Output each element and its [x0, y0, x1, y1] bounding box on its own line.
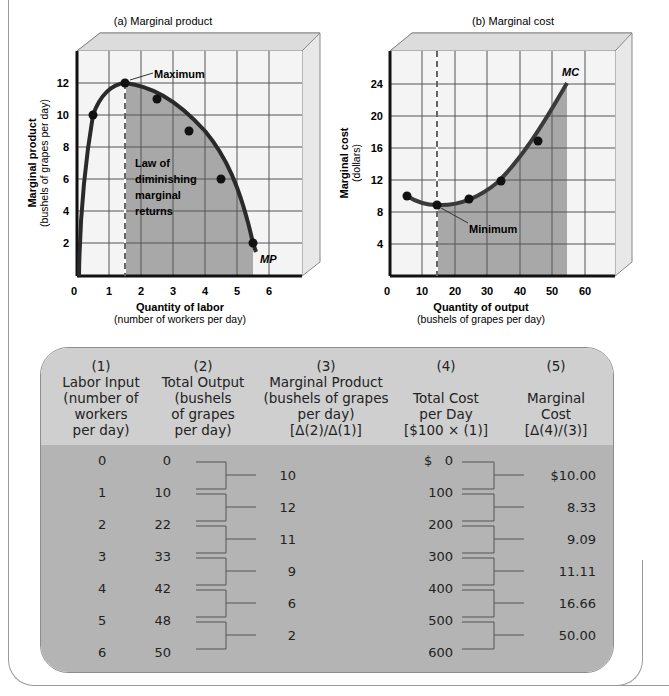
output-cell: 33 — [141, 549, 171, 564]
mp-cell: 9 — [266, 564, 296, 579]
mc-cell: 8.33 — [531, 500, 596, 515]
total-cost-cell: 300 — [401, 549, 453, 564]
labor-cell: 5 — [98, 613, 106, 628]
mp-cell: 6 — [266, 596, 296, 611]
x-tick: 30 — [481, 285, 493, 297]
mc-cell: 16.66 — [531, 596, 596, 611]
labor-cell: 6 — [98, 645, 106, 660]
x-axis-label: Quantity of labor — [136, 301, 225, 313]
y-tick: 4 — [63, 205, 70, 217]
y-tick: 12 — [371, 174, 383, 186]
x-tick: 20 — [449, 285, 461, 297]
header-col-1: (1) Labor Input (number of workers per d… — [51, 358, 151, 438]
law-label-2: diminishing — [135, 173, 197, 185]
x-tick: 0 — [384, 285, 390, 297]
mp-cell: 12 — [266, 500, 296, 515]
labor-cell: 2 — [98, 517, 106, 532]
maximum-label: Maximum — [154, 68, 205, 80]
total-cost-cell: 200 — [401, 517, 453, 532]
chart-b-title: (b) Marginal cost — [472, 15, 554, 27]
mc-curve-label: MC — [562, 66, 580, 78]
y-tick: 24 — [371, 78, 384, 90]
y-tick: 10 — [57, 109, 69, 121]
output-cell: 10 — [141, 485, 171, 500]
minimum-label: Minimum — [469, 223, 517, 235]
x-tick: 10 — [416, 285, 428, 297]
law-label-3: marginal — [135, 189, 181, 201]
x-tick: 4 — [202, 285, 209, 297]
bracket-lines — [41, 445, 613, 673]
law-label-1: Law of — [135, 157, 170, 169]
header-col-3: (3) Marginal Product (bushels of grapes … — [256, 358, 396, 438]
y-tick: 12 — [57, 77, 69, 89]
x-tick: 60 — [579, 285, 591, 297]
x-tick: 0 — [71, 285, 77, 297]
y-tick: 6 — [63, 173, 69, 185]
mp-curve-label: MP — [260, 253, 277, 265]
output-cell: 22 — [141, 517, 171, 532]
marginal-product-chart: Maximum Law of diminishing marginal retu… — [0, 0, 643, 340]
table-body: 0 1 2 3 4 5 6 0 10 22 33 42 48 50 10 12 … — [41, 445, 613, 672]
labor-cell: 3 — [98, 549, 106, 564]
output-cell: 48 — [141, 613, 171, 628]
y-axis-label: Marginal cost — [338, 127, 350, 198]
chart-a-title: (a) Marginal product — [114, 15, 212, 27]
x-tick: 3 — [170, 285, 176, 297]
total-cost-cell: 500 — [401, 613, 453, 628]
y-axis-label: Marginal product — [26, 118, 38, 208]
total-cost-cell: 400 — [401, 581, 453, 596]
y-tick: 20 — [371, 110, 383, 122]
x-axis-sublabel: (number of workers per day) — [114, 313, 246, 325]
production-cost-table: (1) Labor Input (number of workers per d… — [40, 347, 614, 673]
mp-cell: 10 — [266, 468, 296, 483]
x-tick: 40 — [514, 285, 526, 297]
total-cost-cell: 600 — [401, 645, 453, 660]
header-col-2: (2) Total Output (bushels of grapes per … — [153, 358, 253, 438]
x-tick: 2 — [138, 285, 144, 297]
total-cost-cell: 100 — [401, 485, 453, 500]
x-tick: 6 — [266, 285, 272, 297]
law-label-4: returns — [135, 205, 173, 217]
output-cell: 50 — [141, 645, 171, 660]
header-col-4: (4) Total Cost per Day [$100 × (1)] — [396, 358, 496, 438]
mp-cell: 11 — [266, 532, 296, 547]
x-tick: 1 — [106, 285, 112, 297]
y-tick: 16 — [371, 142, 383, 154]
mc-cell: 9.09 — [531, 532, 596, 547]
header-col-5: (5) Marginal Cost [Δ(4)/(3)] — [506, 358, 606, 438]
y-tick: 4 — [377, 238, 384, 250]
x-tick: 50 — [546, 285, 558, 297]
x-tick: 5 — [234, 285, 240, 297]
output-cell: 0 — [141, 453, 171, 468]
mc-cell: 50.00 — [531, 628, 596, 643]
mc-cell: 11.11 — [531, 564, 596, 579]
mp-cell: 2 — [266, 628, 296, 643]
x-axis-sublabel: (bushels of grapes per day) — [417, 313, 545, 325]
labor-cell: 4 — [98, 581, 106, 596]
y-tick: 8 — [63, 141, 69, 153]
labor-cell: 1 — [98, 485, 106, 500]
y-axis-sublabel: (bushels of grapes per day) — [38, 99, 50, 227]
mc-cell: $10.00 — [531, 468, 596, 483]
y-tick: 8 — [377, 206, 383, 218]
y-tick: 2 — [63, 237, 69, 249]
x-axis-label: Quantity of output — [433, 301, 529, 313]
table-header: (1) Labor Input (number of workers per d… — [41, 348, 613, 445]
total-cost-cell: $ 0 — [401, 453, 453, 468]
y-axis-sublabel: (dollars) — [350, 144, 362, 182]
output-cell: 42 — [141, 581, 171, 596]
labor-cell: 0 — [98, 453, 106, 468]
